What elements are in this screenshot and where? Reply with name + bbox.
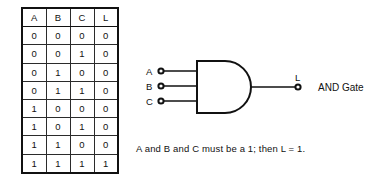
cell-l: 0 — [94, 118, 118, 136]
caption-text: A and B and C must be a 1; then L = 1. — [136, 143, 305, 154]
truth-table-head: A B C L — [22, 8, 118, 27]
cell-b: 1 — [46, 63, 70, 81]
table-row: 0 0 0 0 — [22, 27, 118, 45]
cell-l: 0 — [94, 100, 118, 118]
truth-table-header-row: A B C L — [22, 8, 118, 27]
table-row: 1 0 1 0 — [22, 118, 118, 136]
table-row: 0 1 0 0 — [22, 63, 118, 81]
cell-a: 0 — [22, 45, 46, 63]
column-header-l: L — [94, 8, 118, 27]
and-gate-diagram: A B C L AND Gate — [140, 52, 369, 122]
cell-c: 1 — [70, 45, 94, 63]
cell-c: 0 — [70, 136, 94, 154]
cell-l: 0 — [94, 27, 118, 45]
cell-l: 0 — [94, 81, 118, 99]
cell-b: 1 — [46, 154, 70, 173]
gate-name-label: AND Gate — [318, 83, 364, 93]
cell-b: 0 — [46, 45, 70, 63]
cell-c: 1 — [70, 118, 94, 136]
cell-c: 0 — [70, 27, 94, 45]
cell-c: 1 — [70, 81, 94, 99]
output-terminal-l — [295, 84, 300, 89]
input-label-b: B — [146, 82, 152, 92]
cell-a: 0 — [22, 27, 46, 45]
cell-c: 0 — [70, 100, 94, 118]
column-header-a: A — [22, 8, 46, 27]
input-label-a: A — [146, 67, 152, 77]
cell-a: 1 — [22, 100, 46, 118]
truth-table-body: 0 0 0 0 0 0 1 0 0 1 0 0 0 1 1 0 1 0 0 0 — [22, 27, 118, 173]
cell-l: 0 — [94, 136, 118, 154]
cell-b: 1 — [46, 81, 70, 99]
cell-c: 0 — [70, 63, 94, 81]
cell-b: 0 — [46, 118, 70, 136]
input-terminal-c — [158, 98, 163, 103]
and-gate-body — [197, 61, 251, 113]
cell-b: 0 — [46, 100, 70, 118]
table-row: 0 1 1 0 — [22, 81, 118, 99]
table-row: 1 1 0 0 — [22, 136, 118, 154]
table-row: 1 1 1 1 — [22, 154, 118, 173]
column-header-c: C — [70, 8, 94, 27]
cell-l: 1 — [94, 154, 118, 173]
table-row: 0 0 1 0 — [22, 45, 118, 63]
table-row: 1 0 0 0 — [22, 100, 118, 118]
output-label-l: L — [295, 73, 300, 83]
input-terminal-a — [158, 68, 163, 73]
cell-l: 0 — [94, 63, 118, 81]
input-terminal-b — [158, 83, 163, 88]
cell-a: 1 — [22, 118, 46, 136]
truth-table: A B C L 0 0 0 0 0 0 1 0 0 1 0 0 0 1 1 0 — [21, 7, 119, 174]
cell-a: 1 — [22, 136, 46, 154]
cell-c: 1 — [70, 154, 94, 173]
column-header-b: B — [46, 8, 70, 27]
cell-a: 1 — [22, 154, 46, 173]
cell-b: 0 — [46, 27, 70, 45]
cell-a: 0 — [22, 63, 46, 81]
cell-b: 1 — [46, 136, 70, 154]
cell-l: 0 — [94, 45, 118, 63]
cell-a: 0 — [22, 81, 46, 99]
input-label-c: C — [146, 97, 153, 107]
